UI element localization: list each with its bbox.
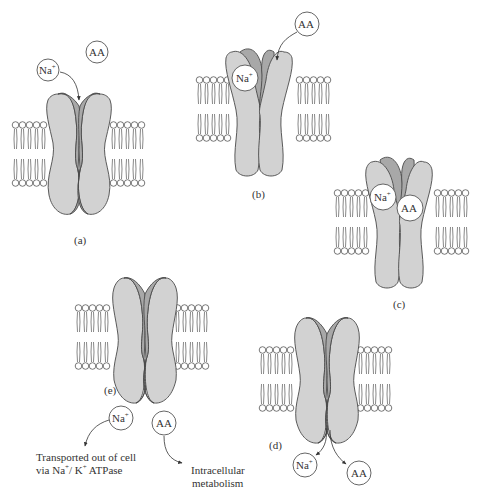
na-fate-line2: via Na+/ K+ ATPase xyxy=(36,463,123,476)
amino-acid: AA xyxy=(86,41,108,63)
amino-acid: AA xyxy=(152,411,176,435)
amino-acid: AA xyxy=(295,12,319,36)
arrow-icon xyxy=(85,420,109,446)
sodium-ion: Na+ xyxy=(293,453,317,477)
svg-text:AA: AA xyxy=(351,467,367,479)
panel-e: (e) Na+ Transported out of cell via Na+/… xyxy=(36,278,245,489)
svg-text:AA: AA xyxy=(298,18,314,30)
svg-text:AA: AA xyxy=(89,46,105,58)
panel-label-e: (e) xyxy=(104,384,117,397)
panel-label-a: (a) xyxy=(74,234,87,247)
na-fate-line1: Transported out of cell xyxy=(36,451,136,463)
amino-acid: AA xyxy=(347,461,371,485)
panel-c: Na+ AA (c) xyxy=(334,157,469,311)
sodium-ion: Na+ xyxy=(37,59,59,81)
panel-label-c: (c) xyxy=(393,298,406,311)
panel-label-d: (d) xyxy=(269,439,282,452)
panel-label-b: (b) xyxy=(252,188,265,201)
svg-text:AA: AA xyxy=(401,202,417,214)
transport-cycle-diagram: Na+ AA (a) Na+ AA (b) xyxy=(0,0,481,498)
svg-text:AA: AA xyxy=(156,417,172,429)
panel-a: Na+ AA (a) xyxy=(12,41,145,247)
sodium-ion: Na+ xyxy=(109,406,133,430)
arrow-icon xyxy=(164,436,182,463)
panel-b: Na+ AA (b) xyxy=(196,12,331,201)
aa-fate-line2: metabolism xyxy=(192,477,244,489)
sodium-ion: Na+ xyxy=(370,184,396,210)
amino-acid: AA xyxy=(397,195,423,221)
aa-fate-line1: Intracellular xyxy=(191,464,245,476)
panel-d: (d) Na+ AA xyxy=(259,318,392,485)
sodium-ion: Na+ xyxy=(232,65,258,91)
